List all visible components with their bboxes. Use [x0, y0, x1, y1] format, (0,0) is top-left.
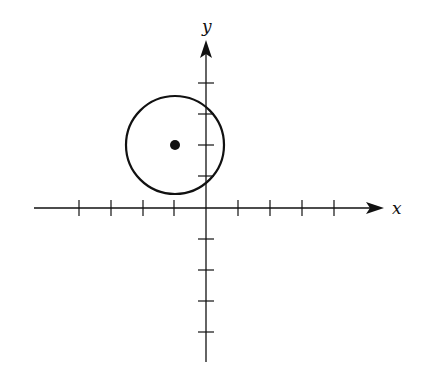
coordinate-diagram: x y — [0, 0, 423, 383]
y-axis-label: y — [201, 16, 212, 36]
x-axis-label: x — [392, 198, 402, 218]
center-point — [170, 140, 180, 150]
